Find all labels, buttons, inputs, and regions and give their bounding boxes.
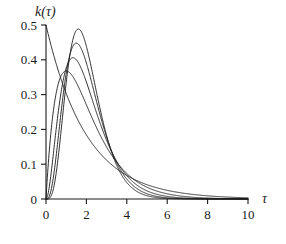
chart-container: 00.10.20.30.40.5 0246810 k(τ) τ (0, 0, 286, 244)
y-tick-label: 0.5 (21, 18, 37, 33)
y-tick-label: 0.4 (21, 52, 38, 67)
data-curve-1 (46, 25, 248, 198)
x-tick-group: 0246810 (43, 199, 255, 222)
x-axis-title: τ (262, 191, 268, 206)
y-axis-title: k(τ) (35, 4, 56, 20)
y-tick-label: 0.1 (21, 157, 37, 172)
x-tick-label: 8 (204, 207, 211, 222)
y-tick-label: 0.3 (21, 87, 37, 102)
x-tick-label: 10 (242, 207, 255, 222)
x-tick-label: 4 (124, 207, 131, 222)
x-tick-label: 6 (164, 207, 171, 222)
gamma-density-chart: 00.10.20.30.40.5 0246810 k(τ) τ (0, 0, 286, 244)
x-tick-label: 2 (83, 207, 90, 222)
y-tick-group: 00.10.20.30.40.5 (21, 18, 46, 207)
data-curve-3 (46, 58, 248, 199)
y-tick-label: 0.2 (21, 122, 37, 137)
data-curve-2 (46, 71, 248, 199)
data-curve-4 (46, 43, 248, 199)
y-axis: 00.10.20.30.40.5 (21, 18, 46, 207)
x-axis: 0246810 (43, 199, 255, 222)
x-tick-label: 0 (43, 207, 50, 222)
data-curve-5 (46, 29, 248, 199)
curve-group (46, 25, 248, 199)
y-tick-label: 0 (31, 192, 38, 207)
